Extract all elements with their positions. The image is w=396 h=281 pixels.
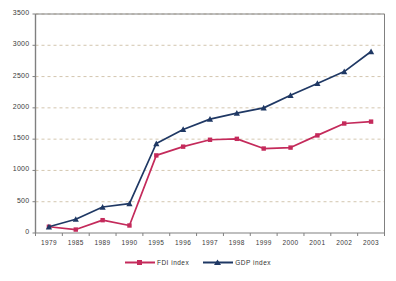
x-axis-label: 2001	[304, 239, 331, 246]
legend-swatch-gdp	[203, 258, 233, 267]
data-point-marker	[74, 227, 78, 231]
x-axis-label: 1998	[223, 239, 250, 246]
data-point-marker	[235, 137, 239, 141]
x-axis-label: 1985	[62, 239, 89, 246]
x-axis-label: 2003	[358, 239, 385, 246]
x-axis-label: 2002	[331, 239, 358, 246]
data-point-marker	[154, 153, 158, 157]
data-point-marker	[342, 121, 346, 125]
data-point-marker	[261, 146, 265, 150]
chart-legend: FDI index GDP index	[0, 258, 396, 267]
line-chart: 0500100015002000250030003500 19791985198…	[0, 0, 396, 281]
data-point-marker	[368, 48, 374, 54]
data-point-marker	[181, 144, 185, 148]
y-axis-label: 1000	[0, 165, 30, 172]
legend-item-fdi: FDI index	[125, 258, 189, 267]
x-axis-label: 1999	[250, 239, 277, 246]
legend-label-fdi: FDI index	[157, 259, 189, 266]
legend-swatch-fdi	[125, 258, 155, 267]
x-axis-label: 1996	[170, 239, 197, 246]
data-point-marker	[288, 145, 292, 149]
x-axis-label: 1989	[89, 239, 116, 246]
data-point-marker	[369, 119, 373, 123]
data-point-marker	[208, 138, 212, 142]
x-axis-label: 1995	[143, 239, 170, 246]
legend-item-gdp: GDP index	[203, 258, 271, 267]
x-axis-label: 2000	[277, 239, 304, 246]
y-axis-label: 3000	[0, 40, 30, 47]
x-axis-label: 1990	[116, 239, 143, 246]
y-axis-label: 1500	[0, 134, 30, 141]
data-point-marker	[315, 133, 319, 137]
y-axis-label: 2000	[0, 103, 30, 110]
x-axis-label: 1979	[36, 239, 63, 246]
y-axis-label: 500	[0, 197, 30, 204]
y-axis-label: 3500	[0, 9, 30, 16]
x-axis-label: 1997	[197, 239, 224, 246]
y-axis-label: 0	[0, 228, 30, 235]
y-axis-label: 2500	[0, 72, 30, 79]
data-point-marker	[127, 223, 131, 227]
data-point-marker	[100, 218, 104, 222]
legend-label-gdp: GDP index	[235, 259, 271, 266]
